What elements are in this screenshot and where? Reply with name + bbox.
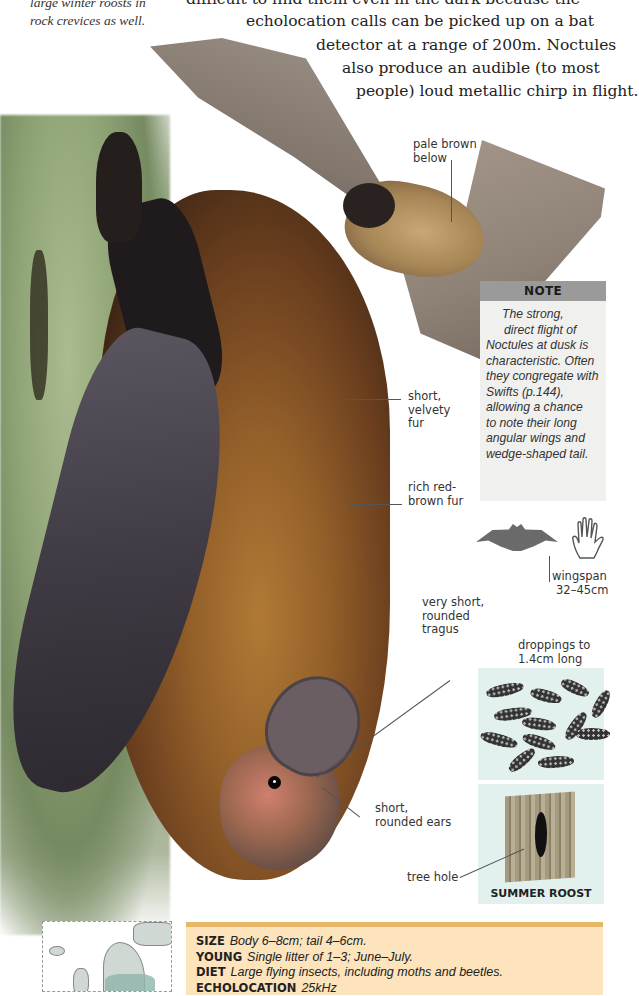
dropping-icon: [576, 728, 610, 740]
leader-line: [549, 556, 550, 582]
note-line: wedge-shaped tail.: [486, 447, 602, 463]
label-line: very short,: [422, 596, 484, 610]
dropping-icon: [521, 716, 556, 733]
fact-row: SIZEBody 6–8cm; tail 4–6cm.: [186, 934, 603, 950]
note-title: NOTE: [480, 281, 606, 301]
map-landmass: [133, 922, 172, 946]
label-tree-hole: tree hole: [407, 871, 458, 885]
facts-box: SIZEBody 6–8cm; tail 4–6cm. YOUNGSingle …: [186, 922, 603, 995]
leader-line: [451, 160, 452, 222]
label-droppings: droppings to 1.4cm long: [518, 639, 590, 666]
droppings-illustration: [478, 668, 604, 780]
label-line: rich red-: [408, 481, 463, 495]
leader-line: [345, 399, 401, 400]
label-ears: short, rounded ears: [375, 802, 451, 829]
fact-value: Large flying insects, including moths an…: [231, 965, 503, 979]
fact-key: DIET: [196, 965, 226, 979]
fact-key: YOUNG: [196, 950, 242, 964]
note-line: angular wings and: [486, 431, 602, 447]
label-line: brown fur: [408, 495, 463, 509]
label-velvety-fur: short, velvety fur: [408, 390, 450, 431]
note-line: Noctules at dusk is: [486, 338, 602, 354]
dropping-icon: [589, 688, 614, 720]
fact-value: Body 6–8cm; tail 4–6cm.: [230, 934, 367, 948]
tree-hole-icon: [535, 812, 547, 858]
map-iceland: [49, 946, 65, 956]
note-line: Swifts (p.144),: [486, 385, 602, 401]
label-line: 32–45cm: [552, 584, 609, 598]
hand-scale-icon: [570, 516, 606, 560]
label-line: rounded: [422, 610, 484, 624]
side-caption-line: rock crevices as well.: [30, 12, 170, 30]
label-line: velvety: [408, 404, 450, 418]
label-wingspan: wingspan 32–45cm: [552, 570, 609, 597]
map-britain: [73, 968, 89, 992]
bat-eye: [268, 776, 281, 789]
dropping-icon: [529, 686, 563, 706]
map-range-area: [105, 974, 155, 992]
dropping-icon: [479, 729, 519, 750]
fact-value: 25kHz: [301, 981, 336, 995]
note-line: characteristic. Often: [486, 354, 602, 370]
distribution-map: [42, 921, 172, 992]
fact-row: ECHOLOCATION25kHz: [186, 981, 603, 996]
note-line: The strong,: [486, 307, 602, 323]
label-tragus: very short, rounded tragus: [422, 596, 484, 637]
flying-bat-head: [343, 183, 395, 228]
label-line: droppings to: [518, 639, 590, 653]
label-red-brown-fur: rich red- brown fur: [408, 481, 463, 508]
body-text-line: difficult to find them even in the dark …: [186, 0, 580, 10]
leader-line: [350, 504, 402, 505]
note-line: direct flight of: [486, 323, 602, 339]
bat-foot: [96, 132, 142, 242]
note-line: allowing a chance: [486, 400, 602, 416]
side-caption: large winter roosts in rock crevices as …: [30, 0, 170, 30]
tree-bark: [505, 792, 575, 883]
label-pale-brown: pale brown below: [413, 138, 477, 165]
label-line: below: [413, 152, 477, 166]
dropping-icon: [485, 680, 525, 700]
side-caption-line: large winter roosts in: [30, 0, 170, 12]
roost-caption: SUMMER ROOST: [478, 887, 604, 900]
summer-roost-illustration: SUMMER ROOST: [478, 784, 604, 904]
label-line: wingspan: [552, 570, 609, 584]
label-line: short,: [408, 390, 450, 404]
fact-key: SIZE: [196, 934, 225, 948]
note-line: to note their long: [486, 416, 602, 432]
label-line: rounded ears: [375, 816, 451, 830]
bat-silhouette-icon: [476, 524, 558, 554]
label-line: fur: [408, 417, 450, 431]
dropping-icon: [559, 676, 591, 700]
body-text-line: people) loud metallic chirp in flight.: [356, 80, 639, 102]
label-line: tragus: [422, 623, 484, 637]
fact-row: DIETLarge flying insects, including moth…: [186, 965, 603, 981]
note-body: The strong, direct flight of Noctules at…: [480, 301, 606, 462]
body-text-line: detector at a range of 200m. Noctules: [316, 34, 616, 56]
label-line: 1.4cm long: [518, 653, 590, 667]
fact-key: ECHOLOCATION: [196, 981, 296, 995]
rock-crack: [30, 250, 48, 400]
note-line: they congregate with: [486, 369, 602, 385]
label-line: short,: [375, 802, 451, 816]
dropping-icon: [538, 755, 575, 769]
body-text-line: also produce an audible (to most: [342, 57, 600, 79]
label-line: pale brown: [413, 138, 477, 152]
body-text-line: echolocation calls can be picked up on a…: [246, 10, 594, 32]
fact-row: YOUNGSingle litter of 1–3; June–July.: [186, 950, 603, 966]
note-box: NOTE The strong, direct flight of Noctul…: [480, 281, 606, 501]
dropping-icon: [506, 745, 538, 775]
fact-value: Single litter of 1–3; June–July.: [247, 950, 413, 964]
